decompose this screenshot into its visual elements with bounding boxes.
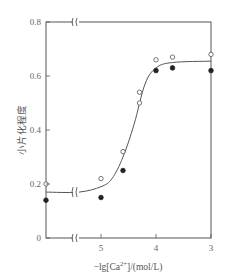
filled-circle-point — [154, 68, 159, 73]
open-circle-point — [170, 55, 174, 59]
x-axis-ticks: 543 — [99, 234, 214, 253]
plot-frame — [46, 18, 211, 242]
y-tick-label: 0 — [37, 233, 42, 243]
x-axis-title: −lg[Ca2+]/(mol/L) — [94, 260, 163, 273]
y-tick-label: 0.8 — [30, 17, 42, 27]
x-tick-label: 4 — [154, 243, 159, 253]
y-tick-label: 0.6 — [30, 71, 42, 81]
filled-circle-point — [44, 198, 49, 203]
open-circle-point — [209, 52, 213, 56]
filled-circle-point — [99, 195, 104, 200]
filled-circle-point — [121, 168, 126, 173]
open-circle-point — [99, 176, 103, 180]
y-tick-label: 0.4 — [30, 125, 42, 135]
y-axis-title: 小片化程度 — [16, 105, 27, 155]
filled-circle-point — [209, 68, 214, 73]
open-circle-point — [154, 58, 158, 62]
open-circle-point — [121, 149, 125, 153]
chart: 00.20.40.60.8 543 小片化程度 −lg[Ca2+]/(mol/L… — [0, 0, 227, 278]
x-tick-label: 3 — [209, 243, 214, 253]
data-points — [44, 52, 214, 202]
y-tick-label: 0.2 — [30, 179, 41, 189]
open-circle-point — [137, 90, 141, 94]
fitted-curve — [46, 61, 211, 197]
open-circle-point — [137, 101, 141, 105]
filled-circle-point — [170, 66, 175, 71]
x-tick-label: 5 — [99, 243, 104, 253]
y-axis-ticks: 00.20.40.60.8 — [30, 17, 50, 243]
